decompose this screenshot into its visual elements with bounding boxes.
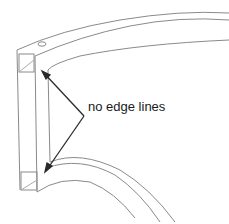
inner-upper-arc (48, 40, 229, 70)
top-hole (38, 42, 46, 46)
bottom-middle-arc (46, 163, 160, 222)
top-outer-arc (17, 12, 229, 50)
bottom-lower-arc (37, 180, 135, 218)
arrow-bottom (46, 116, 84, 171)
top-second-arc (35, 19, 229, 56)
column-side-right (48, 70, 50, 162)
top-opening (19, 54, 34, 72)
frame-geometry (17, 12, 229, 222)
annotation-label: no edge lines (88, 100, 165, 114)
bottom-upper-arc (50, 158, 175, 223)
